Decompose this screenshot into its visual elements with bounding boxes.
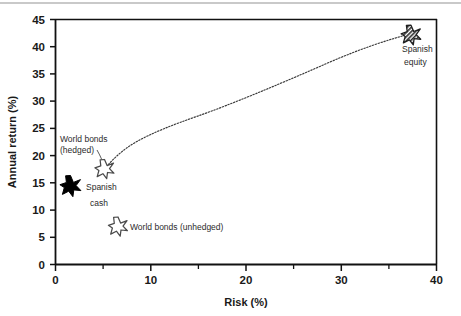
- point-label-line2: (hedged): [60, 145, 94, 155]
- y-tick-label-15: 15: [32, 177, 45, 189]
- y-tick-label-5: 5: [39, 231, 46, 243]
- point-label-line2: equity: [404, 57, 427, 67]
- x-tick-label-20: 20: [240, 274, 253, 286]
- point-label-spanish-equity: Spanish equity: [402, 44, 433, 67]
- x-tick-label-0: 0: [52, 274, 58, 286]
- point-label-world-bonds-hedged: World bonds (hedged): [60, 134, 108, 155]
- star-filled-icon: [60, 176, 81, 197]
- point-label-line1: Spanish: [402, 44, 433, 54]
- point-label-line1: Spanish: [86, 182, 117, 192]
- data-point-world-bonds-unhedged[interactable]: [108, 217, 127, 236]
- x-tick-label-10: 10: [144, 274, 157, 286]
- y-axis-tick-labels: 0 5 10 15 20 25 30 35 40 45: [32, 14, 45, 271]
- x-tick-label-40: 40: [430, 274, 443, 286]
- x-axis-title: Risk (%): [224, 296, 268, 308]
- x-axis-tick-labels: 0 10 20 30 40: [52, 274, 443, 286]
- y-tick-label-10: 10: [32, 204, 45, 216]
- star-hollow-icon: [108, 217, 127, 236]
- y-tick-label-30: 30: [32, 95, 45, 107]
- y-axis-title: Annual return (%): [6, 96, 18, 189]
- data-point-spanish-cash[interactable]: [60, 176, 81, 197]
- y-tick-label-40: 40: [32, 41, 45, 53]
- point-label-line1: World bonds (unhedged): [130, 222, 224, 232]
- point-label-line2: cash: [90, 198, 108, 208]
- point-label-spanish-cash: Spanish cash: [86, 182, 117, 208]
- point-label-line1: World bonds: [60, 134, 108, 144]
- x-tick-label-30: 30: [335, 274, 348, 286]
- star-hatched-icon: [401, 25, 421, 45]
- y-tick-label-45: 45: [32, 14, 45, 26]
- chart-page: 0 5 10 15 20 25 30 35 40 45 0 10: [0, 0, 461, 316]
- efficient-frontier-curve: [105, 34, 411, 169]
- y-tick-label-20: 20: [32, 150, 45, 162]
- y-tick-label-0: 0: [39, 259, 45, 271]
- point-label-world-bonds-unhedged: World bonds (unhedged): [130, 222, 224, 232]
- y-tick-label-25: 25: [32, 122, 45, 134]
- y-axis-ticks: [50, 20, 55, 265]
- data-point-spanish-equity[interactable]: [401, 25, 421, 45]
- y-tick-label-35: 35: [32, 68, 45, 80]
- efficient-frontier-chart: 0 5 10 15 20 25 30 35 40 45 0 10: [0, 0, 461, 316]
